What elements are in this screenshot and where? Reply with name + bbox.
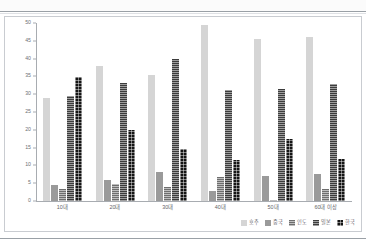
legend-label: 일본 bbox=[321, 220, 331, 225]
chart-page: 05101520253035404550 10대20대30대40대50대60대 … bbox=[0, 0, 366, 250]
x-axis-label: 60대 이상 bbox=[299, 205, 352, 210]
bar-인도[interactable] bbox=[270, 200, 277, 201]
x-axis-line bbox=[36, 201, 352, 202]
bar-호주[interactable] bbox=[254, 39, 261, 201]
x-axis-label: 20대 bbox=[89, 205, 142, 210]
bar-group bbox=[194, 23, 247, 201]
bar-인도[interactable] bbox=[322, 189, 329, 201]
bar-인도[interactable] bbox=[59, 189, 66, 201]
bar-한국[interactable] bbox=[75, 77, 82, 201]
bar-group bbox=[247, 23, 300, 201]
x-axis-label: 10대 bbox=[36, 205, 89, 210]
bar-호주[interactable] bbox=[201, 25, 208, 201]
legend-swatch-icon bbox=[289, 220, 295, 226]
bar-호주[interactable] bbox=[306, 37, 313, 201]
legend-item[interactable]: 중국 bbox=[265, 220, 283, 226]
header-band bbox=[0, 0, 366, 11]
bar-group bbox=[36, 23, 89, 201]
legend-swatch-icon bbox=[313, 220, 319, 226]
bar-한국[interactable] bbox=[128, 130, 135, 201]
legend-label: 한국 bbox=[345, 220, 355, 225]
bar-group bbox=[89, 23, 142, 201]
top-divider bbox=[0, 11, 366, 12]
bar-일본[interactable] bbox=[120, 83, 127, 201]
legend-item[interactable]: 인도 bbox=[289, 220, 307, 226]
x-axis-labels: 10대20대30대40대50대60대 이상 bbox=[36, 205, 352, 210]
plot-area: 05101520253035404550 bbox=[36, 23, 352, 201]
bar-groups bbox=[36, 23, 352, 201]
bar-호주[interactable] bbox=[96, 66, 103, 201]
legend-item[interactable]: 일본 bbox=[313, 220, 331, 226]
bar-중국[interactable] bbox=[209, 191, 216, 201]
bar-일본[interactable] bbox=[330, 84, 337, 201]
x-axis-label: 40대 bbox=[194, 205, 247, 210]
legend-item[interactable]: 호주 bbox=[241, 220, 259, 226]
legend-swatch-icon bbox=[241, 220, 247, 226]
x-axis-label: 30대 bbox=[141, 205, 194, 210]
legend-label: 인도 bbox=[297, 220, 307, 225]
legend-swatch-icon bbox=[337, 220, 343, 226]
bar-호주[interactable] bbox=[43, 98, 50, 201]
chart-legend: 호주중국인도일본한국 bbox=[5, 220, 355, 226]
bar-일본[interactable] bbox=[172, 59, 179, 201]
legend-label: 중국 bbox=[273, 220, 283, 225]
bar-group bbox=[299, 23, 352, 201]
bar-호주[interactable] bbox=[148, 75, 155, 201]
bar-group bbox=[141, 23, 194, 201]
bar-인도[interactable] bbox=[164, 187, 171, 201]
bottom-divider bbox=[0, 238, 366, 239]
bar-중국[interactable] bbox=[104, 180, 111, 201]
x-axis-label: 50대 bbox=[247, 205, 300, 210]
bar-일본[interactable] bbox=[225, 90, 232, 201]
chart-container: 05101520253035404550 10대20대30대40대50대60대 … bbox=[4, 16, 362, 232]
top-divider-secondary bbox=[0, 13, 366, 14]
bar-한국[interactable] bbox=[286, 139, 293, 201]
bar-한국[interactable] bbox=[233, 160, 240, 201]
legend-label: 호주 bbox=[249, 220, 259, 225]
legend-swatch-icon bbox=[265, 220, 271, 226]
bar-일본[interactable] bbox=[278, 89, 285, 201]
bar-중국[interactable] bbox=[156, 172, 163, 201]
bar-중국[interactable] bbox=[314, 174, 321, 201]
bar-인도[interactable] bbox=[112, 184, 119, 201]
bar-한국[interactable] bbox=[338, 159, 345, 201]
bar-한국[interactable] bbox=[180, 149, 187, 201]
legend-item[interactable]: 한국 bbox=[337, 220, 355, 226]
bar-인도[interactable] bbox=[217, 177, 224, 201]
bar-일본[interactable] bbox=[67, 96, 74, 201]
bar-중국[interactable] bbox=[51, 185, 58, 201]
bar-중국[interactable] bbox=[262, 176, 269, 201]
